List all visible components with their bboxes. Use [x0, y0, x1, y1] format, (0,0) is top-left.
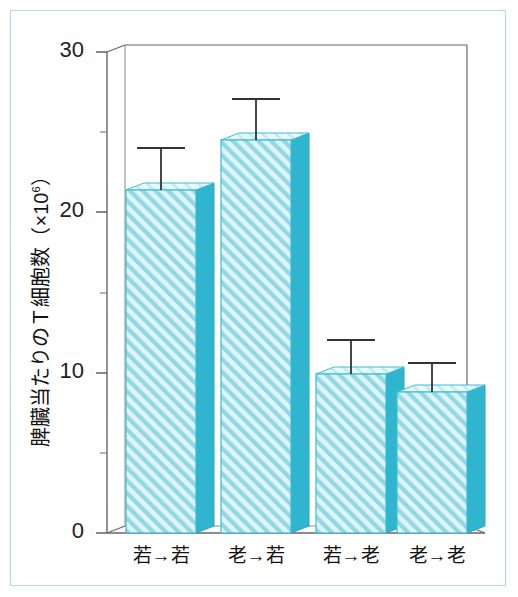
y-tick-label-30: 30	[40, 39, 84, 61]
bar-front-4	[397, 392, 467, 533]
bar-front-1	[126, 190, 196, 533]
y-axis-title-suffix: ）	[30, 166, 52, 186]
y-axis-title-text: 脾臓当たりのＴ細胞数（×10	[30, 193, 52, 447]
bar-front-3	[316, 374, 386, 533]
x-tick-label-1: 若→若	[111, 540, 211, 567]
figure-container: 0 10 20 30 脾臓当たりのＴ細胞数（×106） 若→若 老→若 若→老 …	[0, 0, 518, 597]
bar-side-2	[291, 133, 309, 533]
bar-chart-plot	[0, 0, 518, 597]
y-axis-title: 脾臓当たりのＴ細胞数（×106）	[25, 72, 54, 542]
x-tick-label-2: 老→若	[206, 540, 306, 567]
x-tick-label-4: 老→老	[387, 540, 487, 567]
bar-group-3[interactable]	[316, 340, 404, 533]
bar-group-2[interactable]	[221, 99, 309, 533]
x-tick-label-3: 若→老	[301, 540, 401, 567]
bar-side-4	[467, 385, 485, 533]
bar-group-4[interactable]	[397, 363, 485, 533]
bar-side-1	[196, 183, 214, 533]
y-axis-exponent: 6	[30, 186, 42, 192]
bar-group-1[interactable]	[126, 148, 214, 533]
y-axis-ticks	[96, 52, 107, 533]
bar-front-2	[221, 140, 291, 533]
